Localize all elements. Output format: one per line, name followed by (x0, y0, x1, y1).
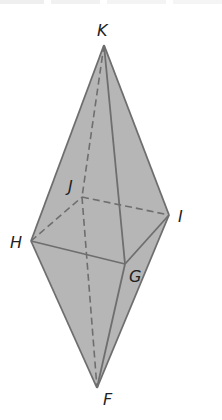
bipyramid-diagram: K J I H G F (0, 0, 222, 420)
bipyramid-fill (31, 45, 169, 388)
vertex-label-h: H (10, 233, 22, 252)
vertex-label-i: I (178, 207, 183, 226)
vertex-label-k: K (97, 21, 109, 40)
vertex-label-f: F (103, 390, 113, 409)
vertex-label-g: G (129, 267, 141, 286)
